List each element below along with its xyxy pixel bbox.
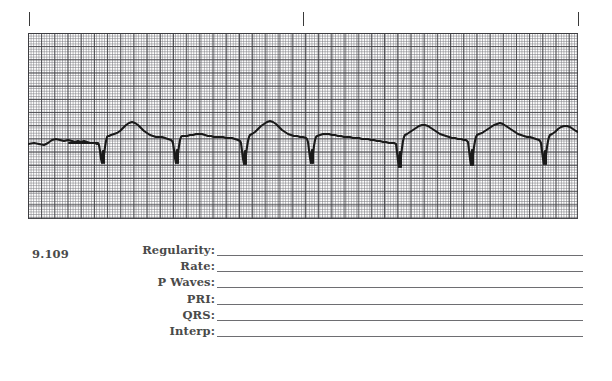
ecg-waveform-trace (28, 33, 578, 219)
worksheet-answer-block: 9.109 Regularity: Rate: P Waves: PRI: QR… (0, 243, 612, 340)
field-label-p-waves: P Waves: (157, 275, 215, 289)
ecg-rhythm-strip (28, 33, 578, 219)
field-input-qrs[interactable] (217, 320, 583, 321)
field-label-rate: Rate: (180, 259, 215, 273)
field-row-qrs: QRS: (0, 308, 612, 324)
alignment-tick-center (303, 12, 304, 26)
alignment-tick-right (578, 12, 579, 26)
field-input-rate[interactable] (217, 271, 583, 272)
field-input-interp[interactable] (217, 336, 583, 337)
alignment-tick-row (0, 0, 612, 33)
field-row-regularity: Regularity: (0, 243, 612, 259)
field-input-regularity[interactable] (217, 255, 583, 256)
field-row-rate: Rate: (0, 259, 612, 275)
field-row-p-waves: P Waves: (0, 275, 612, 291)
field-row-pri: PRI: (0, 292, 612, 308)
field-label-qrs: QRS: (182, 308, 215, 322)
ecg-waveform-polyline (28, 121, 578, 167)
field-input-pri[interactable] (217, 304, 583, 305)
field-input-p-waves[interactable] (217, 287, 583, 288)
alignment-tick-left (29, 12, 30, 26)
field-label-regularity: Regularity: (142, 243, 215, 257)
field-label-interp: Interp: (170, 324, 215, 338)
field-row-interp: Interp: (0, 324, 612, 340)
field-label-pri: PRI: (187, 292, 215, 306)
